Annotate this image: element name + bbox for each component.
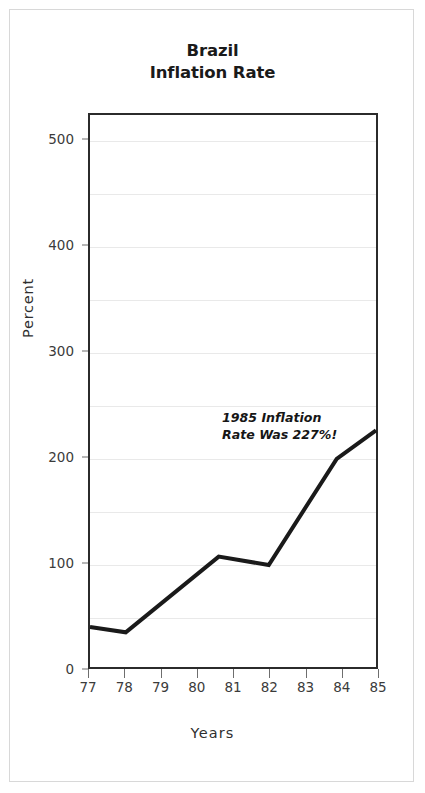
- plot-area: [88, 113, 378, 669]
- annotation-line-1: 1985 Inflation: [222, 410, 362, 427]
- x-tick-label: 82: [249, 679, 289, 695]
- x-tick-mark: [124, 669, 125, 678]
- x-tick-mark: [269, 669, 270, 678]
- x-tick-label: 78: [104, 679, 144, 695]
- y-tick-label: 100: [26, 555, 74, 571]
- data-series-line: [90, 115, 376, 667]
- y-axis-title: Percent: [20, 248, 36, 368]
- y-tick-label: 0: [26, 661, 74, 677]
- plot-inner: [90, 115, 376, 667]
- chart-title-line-2: Inflation Rate: [0, 62, 425, 84]
- x-tick-label: 77: [68, 679, 108, 695]
- x-tick-mark: [161, 669, 162, 678]
- chart-title-line-1: Brazil: [0, 40, 425, 62]
- x-tick-label: 79: [141, 679, 181, 695]
- y-tick-label: 500: [26, 131, 74, 147]
- x-tick-mark: [233, 669, 234, 678]
- x-tick-label: 81: [213, 679, 253, 695]
- chart-title: Brazil Inflation Rate: [0, 40, 425, 84]
- x-tick-mark: [197, 669, 198, 678]
- x-tick-label: 83: [286, 679, 326, 695]
- x-tick-mark: [378, 669, 379, 678]
- y-tick-label: 200: [26, 449, 74, 465]
- chart-figure: Brazil Inflation Rate 0100200300400500 7…: [0, 0, 425, 793]
- x-tick-mark: [306, 669, 307, 678]
- x-tick-mark: [88, 669, 89, 678]
- x-tick-label: 85: [358, 679, 398, 695]
- x-tick-label: 80: [177, 679, 217, 695]
- x-tick-label: 84: [322, 679, 362, 695]
- x-tick-mark: [342, 669, 343, 678]
- x-axis-title: Years: [0, 725, 425, 741]
- chart-annotation: 1985 Inflation Rate Was 227%!: [222, 410, 362, 443]
- annotation-line-2: Rate Was 227%!: [222, 427, 362, 444]
